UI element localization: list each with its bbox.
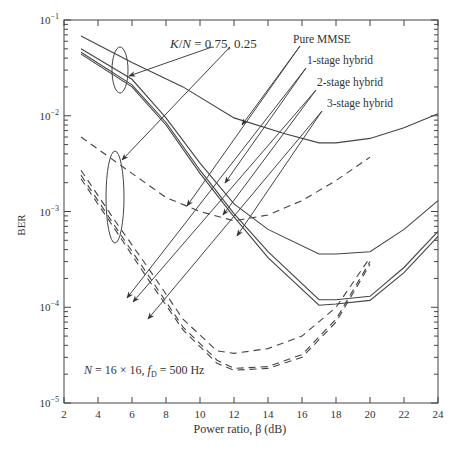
ber-chart: 2468101214161820222410−510−410−310−210−1… [0, 0, 460, 450]
label-1-stage: 1-stage hybrid [307, 54, 373, 67]
annotation-kn: K/N = 0.75, 0.25 [169, 36, 257, 51]
arrow-3stage-1 [237, 111, 322, 236]
arrow-kn-solid [129, 47, 212, 76]
ellipse-solid-group [112, 47, 128, 93]
series-3-stage-hybrid-k-n-0-75 [81, 54, 438, 305]
arrow-2stage-2 [133, 90, 316, 302]
x-tick-label: 24 [433, 408, 445, 420]
y-tick-label: 10−1 [39, 12, 59, 26]
x-tick-label: 18 [331, 408, 343, 420]
label-pure-mmse: Pure MMSE [293, 33, 351, 45]
arrow-3stage-2 [148, 111, 322, 319]
label-2-stage: 2-stage hybrid [317, 76, 383, 89]
series-pure-mmse-k-n-0-25 [81, 137, 370, 221]
x-axis-label: Power ratio, β (dB) [194, 422, 287, 436]
x-tick-label: 22 [399, 408, 410, 420]
y-axis-label: BER [15, 214, 27, 236]
y-tick-label: 10−4 [39, 299, 59, 313]
x-tick-label: 8 [163, 408, 169, 420]
x-tick-label: 12 [229, 408, 240, 420]
annotations: K/N = 0.75, 0.25 Pure MMSE 1-stage hybri… [15, 33, 393, 436]
arrow-1stage-2 [127, 68, 306, 298]
series-3-stage-hybrid-k-n-0-25 [81, 179, 370, 371]
arrow-pure-mmse-2 [187, 46, 300, 206]
arrow-2stage-1 [223, 90, 316, 215]
y-tick-label: 10−3 [39, 204, 59, 218]
arrow-kn-dashed [122, 47, 230, 160]
y-tick-label: 10−5 [39, 395, 59, 409]
x-tick-label: 20 [365, 408, 377, 420]
series-1-stage-hybrid-k-n-0-75 [81, 49, 438, 254]
label-3-stage: 3-stage hybrid [327, 97, 393, 110]
annotation-params: N = 16 × 16, fD = 500 Hz [83, 363, 204, 379]
x-tick-label: 10 [195, 408, 207, 420]
plot-axes: 2468101214161820222410−510−410−310−210−1 [39, 12, 444, 420]
x-tick-label: 4 [95, 408, 101, 420]
x-tick-label: 14 [263, 408, 275, 420]
x-tick-label: 2 [61, 408, 67, 420]
arrow-1stage-1 [225, 68, 306, 183]
y-tick-label: 10−2 [39, 108, 59, 122]
x-tick-label: 16 [297, 408, 309, 420]
x-tick-label: 6 [129, 408, 135, 420]
